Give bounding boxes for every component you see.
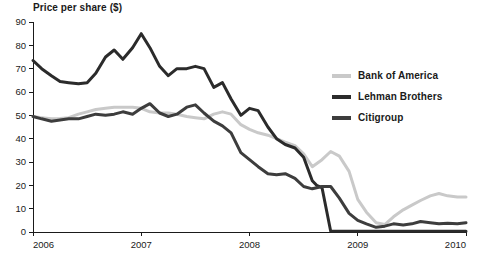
x-tick-label: 2009 <box>347 239 368 250</box>
y-tick-label: 30 <box>15 156 26 167</box>
chart-legend: Bank of America Lehman Brothers Citigrou… <box>332 65 442 128</box>
x-tick-label: 2010 <box>445 239 466 250</box>
y-axis-ticks: 0102030405060708090 <box>15 16 33 237</box>
legend-swatch-icon <box>332 95 351 99</box>
y-tick-label: 80 <box>15 40 26 51</box>
x-axis-ticks: 20062007200820092010 <box>33 232 466 250</box>
legend-item-bank-of-america[interactable]: Bank of America <box>332 65 442 86</box>
x-tick-label: 2006 <box>33 239 54 250</box>
y-tick-label: 0 <box>21 226 26 237</box>
y-tick-label: 60 <box>15 86 26 97</box>
y-tick-label: 70 <box>15 63 26 74</box>
y-tick-label: 10 <box>15 203 26 214</box>
x-tick-label: 2008 <box>239 239 260 250</box>
chart-figure: Price per share ($) 0102030405060708090 … <box>0 0 480 255</box>
legend-item-label: Citigroup <box>358 112 403 123</box>
legend-swatch-icon <box>332 74 351 78</box>
legend-item-label: Lehman Brothers <box>358 91 442 102</box>
y-tick-label: 90 <box>15 16 26 27</box>
y-tick-label: 50 <box>15 110 26 121</box>
y-tick-label: 40 <box>15 133 26 144</box>
legend-item-lehman-brothers[interactable]: Lehman Brothers <box>332 86 442 107</box>
legend-item-citigroup[interactable]: Citigroup <box>332 107 442 128</box>
y-tick-label: 20 <box>15 180 26 191</box>
x-tick-label: 2007 <box>131 239 152 250</box>
legend-item-label: Bank of America <box>358 70 438 81</box>
legend-swatch-icon <box>332 116 351 120</box>
data-series-group <box>33 34 466 232</box>
series-line-lehman-brothers <box>33 34 466 232</box>
